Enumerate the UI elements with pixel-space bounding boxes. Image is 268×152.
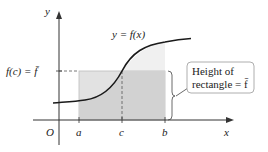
point-a-label: a bbox=[76, 126, 82, 138]
curve-label: y = f(x) bbox=[111, 28, 145, 41]
mean-value-theorem-diagram: y x O a c b y = f(x) f(c) = f̄ Height of… bbox=[0, 0, 268, 152]
callout-line-2: rectangle = f̄ bbox=[192, 78, 249, 90]
point-c-label: c bbox=[119, 126, 124, 138]
area-under-rect-right bbox=[122, 71, 165, 120]
x-axis-arrow-icon bbox=[226, 117, 234, 123]
diagram-svg: y x O a c b y = f(x) f(c) = f̄ Height of… bbox=[0, 0, 268, 152]
callout-leader-line bbox=[176, 88, 188, 96]
y-axis-label: y bbox=[44, 5, 50, 17]
y-axis-arrow-icon bbox=[56, 11, 62, 19]
x-axis-label: x bbox=[223, 126, 229, 138]
area-above-rectangle bbox=[122, 42, 165, 71]
fbar-label: f(c) = f̄ bbox=[6, 65, 39, 78]
callout-line-1: Height of bbox=[192, 65, 234, 77]
point-b-label: b bbox=[162, 126, 168, 138]
origin-label: O bbox=[46, 126, 54, 138]
height-brace bbox=[168, 71, 175, 120]
